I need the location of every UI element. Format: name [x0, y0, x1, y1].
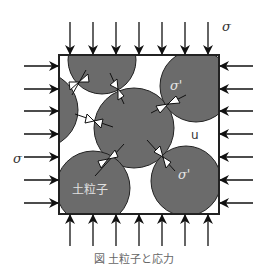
soil-particle-label: 土粒子 — [72, 184, 108, 196]
total-stress-label-left: σ — [13, 152, 22, 165]
right-stress-arrows — [220, 66, 253, 203]
total-stress-label-top: σ — [222, 20, 231, 33]
bottom-stress-arrows — [70, 215, 208, 246]
figure-caption: 図 土粒子と応力 — [0, 254, 268, 265]
top-stress-arrows — [70, 22, 208, 54]
left-stress-arrows — [24, 66, 58, 203]
effective-stress-label-1: σ' — [170, 79, 182, 92]
effective-stress-label-2: σ' — [178, 168, 190, 181]
pore-pressure-label: u — [191, 129, 199, 141]
